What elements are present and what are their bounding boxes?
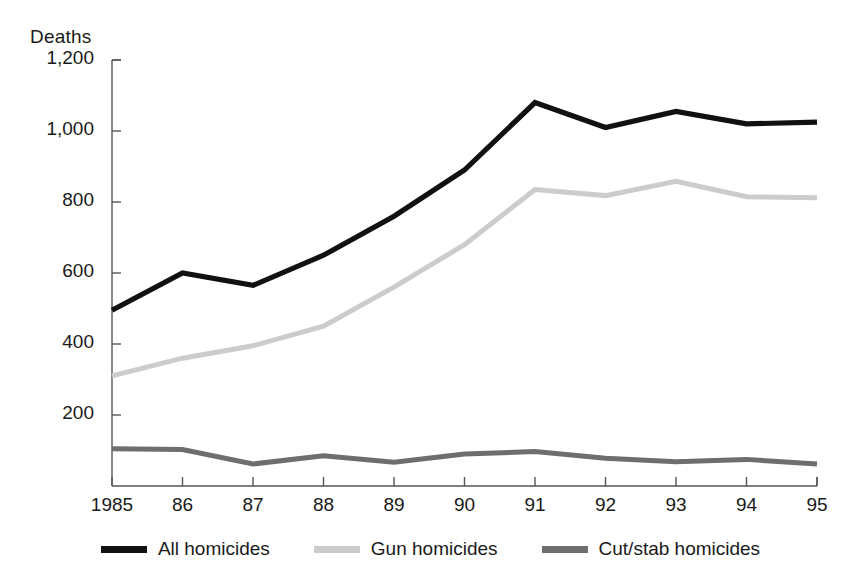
- series-line-cut-stab-homicides: [112, 449, 817, 464]
- legend-swatch-icon: [101, 546, 147, 553]
- legend-label: Cut/stab homicides: [599, 538, 761, 560]
- legend-label: All homicides: [158, 538, 270, 560]
- legend-item[interactable]: Cut/stab homicides: [542, 538, 761, 560]
- legend-label: Gun homicides: [371, 538, 498, 560]
- chart-figure: Deaths 2004006008001,0001,200 1985868788…: [0, 0, 861, 580]
- series-line-all-homicides: [112, 103, 817, 311]
- legend-item[interactable]: Gun homicides: [314, 538, 498, 560]
- chart-legend: All homicidesGun homicidesCut/stab homic…: [0, 538, 861, 560]
- legend-swatch-icon: [542, 546, 588, 553]
- plot-area: [0, 0, 861, 580]
- legend-item[interactable]: All homicides: [101, 538, 270, 560]
- legend-swatch-icon: [314, 546, 360, 553]
